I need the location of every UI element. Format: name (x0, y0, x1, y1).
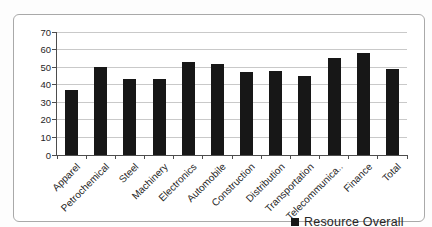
y-axis-label-10: 10 (21, 132, 51, 143)
gridline-60 (57, 49, 407, 50)
x-axis-tick-6 (232, 155, 233, 159)
y-axis-label-20: 20 (21, 114, 51, 125)
legend-swatch-icon (291, 218, 299, 226)
x-axis-label-steel: Steel (117, 161, 141, 185)
gridline-70 (57, 32, 407, 33)
x-axis-tick-11 (377, 155, 378, 159)
y-axis-label-60: 60 (21, 44, 51, 55)
legend: Resource Overall (291, 215, 404, 227)
gridline-40 (57, 84, 407, 85)
y-axis-tick-60 (52, 49, 56, 50)
bar-automobile (211, 64, 224, 155)
x-axis-tick-2 (115, 155, 116, 159)
y-axis-label-70: 70 (21, 27, 51, 38)
x-axis-label-finance: Finance (341, 161, 374, 194)
y-axis-tick-70 (52, 32, 56, 33)
bar-petrochemical (94, 67, 107, 155)
x-axis-tick-7 (261, 155, 262, 159)
y-axis-tick-0 (52, 155, 56, 156)
x-axis-tick-3 (144, 155, 145, 159)
y-axis-label-0: 0 (21, 150, 51, 161)
bar-finance (357, 53, 370, 155)
bar-apparel (65, 90, 78, 155)
x-axis-tick-4 (173, 155, 174, 159)
gridline-10 (57, 137, 407, 138)
x-axis-tick-0 (57, 155, 58, 159)
legend-label: Resource Overall (304, 215, 404, 227)
bar-transportation (298, 76, 311, 155)
x-axis-tick-10 (348, 155, 349, 159)
bar-telecommunica (328, 58, 341, 155)
y-axis-tick-30 (52, 102, 56, 103)
x-axis-tick-1 (86, 155, 87, 159)
x-axis-tick-9 (319, 155, 320, 159)
x-axis-tick-8 (290, 155, 291, 159)
y-axis-label-40: 40 (21, 79, 51, 90)
y-axis-tick-10 (52, 137, 56, 138)
bar-electronics (182, 62, 195, 155)
bar-machinery (153, 79, 166, 155)
gridline-20 (57, 119, 407, 120)
x-axis-label-total: Total (380, 161, 403, 184)
bar-distribution (269, 71, 282, 155)
y-axis-tick-20 (52, 119, 56, 120)
gridline-50 (57, 67, 407, 68)
chart-frame: 010203040506070ApparelPetrochemicalSteel… (13, 14, 425, 222)
y-axis-label-30: 30 (21, 97, 51, 108)
y-axis-label-50: 50 (21, 62, 51, 73)
bar-steel (123, 79, 136, 155)
bar-total (386, 69, 399, 155)
gridline-30 (57, 102, 407, 103)
x-axis-tick-12 (407, 155, 408, 159)
bar-construction (240, 72, 253, 155)
x-axis-tick-5 (202, 155, 203, 159)
y-axis-tick-50 (52, 67, 56, 68)
y-axis-tick-40 (52, 84, 56, 85)
plot-area: 010203040506070ApparelPetrochemicalSteel… (57, 32, 407, 155)
